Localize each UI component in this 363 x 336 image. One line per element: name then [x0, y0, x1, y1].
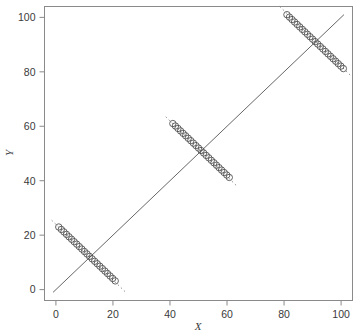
y-tick-label: 40: [24, 175, 36, 187]
y-tick-label: 80: [24, 66, 36, 78]
data-points: [56, 11, 347, 284]
axis-tick-labels: 020406080100020406080100: [18, 11, 350, 319]
y-tick-label: 20: [24, 229, 36, 241]
x-tick-label: 80: [278, 308, 290, 320]
x-tick-label: 100: [332, 308, 350, 320]
x-axis-title: X: [194, 320, 203, 332]
x-tick-label: 20: [107, 308, 119, 320]
y-axis-title: Y: [3, 148, 15, 156]
y-tick-label: 0: [30, 283, 36, 295]
plot-canvas: 020406080100020406080100 X Y: [0, 0, 363, 336]
y-tick-label: 100: [18, 11, 36, 23]
y-tick-label: 60: [24, 120, 36, 132]
x-tick-label: 40: [164, 308, 176, 320]
scatter-plot-figure: 020406080100020406080100 X Y: [0, 0, 363, 336]
identity-line: [53, 15, 344, 293]
x-tick-label: 60: [221, 308, 233, 320]
identity-reference-line: [53, 15, 344, 293]
x-tick-label: 0: [53, 308, 59, 320]
